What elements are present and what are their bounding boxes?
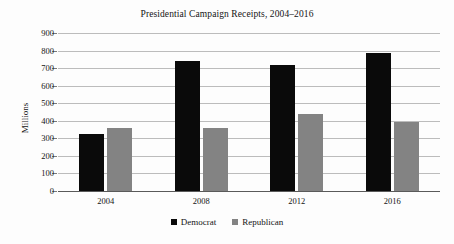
chart-title: Presidential Campaign Receipts, 2004–201… xyxy=(0,9,454,19)
y-axis-tick-labels: 9008007006005004003002001000 xyxy=(26,33,54,191)
y-tick-label: 900 xyxy=(28,28,54,38)
plot-area xyxy=(58,33,440,191)
y-tick-label: 200 xyxy=(28,151,54,161)
bar-democrat-2004 xyxy=(79,134,104,191)
y-tick-label: 400 xyxy=(28,116,54,126)
bar-republican-2016 xyxy=(394,122,419,191)
legend-label: Republican xyxy=(242,217,283,227)
bar-democrat-2008 xyxy=(175,61,200,191)
bar-republican-2012 xyxy=(298,114,323,191)
bar-democrat-2016 xyxy=(366,53,391,191)
axis-baseline xyxy=(58,191,440,192)
chart-legend: DemocratRepublican xyxy=(0,217,454,227)
x-tick-label-2004: 2004 xyxy=(97,196,114,206)
x-tick-label-2016: 2016 xyxy=(384,196,401,206)
legend-swatch-icon xyxy=(232,219,238,225)
y-tick-label: 800 xyxy=(28,46,54,56)
bar-chart: Presidential Campaign Receipts, 2004–201… xyxy=(0,0,454,244)
y-tick-label: 600 xyxy=(28,81,54,91)
y-tick-label: 100 xyxy=(28,168,54,178)
bars-layer xyxy=(58,33,440,191)
bar-democrat-2012 xyxy=(270,65,295,191)
bar-republican-2004 xyxy=(107,128,132,191)
y-tick-label: 0 xyxy=(28,186,54,196)
x-tick-label-2008: 2008 xyxy=(193,196,210,206)
legend-swatch-icon xyxy=(171,219,177,225)
legend-label: Democrat xyxy=(181,217,216,227)
y-tick-label: 500 xyxy=(28,98,54,108)
legend-entry-republican[interactable]: Republican xyxy=(232,217,283,227)
legend-entry-democrat[interactable]: Democrat xyxy=(171,217,216,227)
bar-republican-2008 xyxy=(203,128,228,191)
y-tick-label: 300 xyxy=(28,133,54,143)
x-tick-label-2012: 2012 xyxy=(288,196,305,206)
y-tick-label: 700 xyxy=(28,63,54,73)
